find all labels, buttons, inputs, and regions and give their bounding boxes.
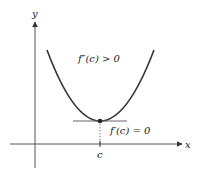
minimum-point — [98, 119, 103, 124]
y-axis-label: y — [31, 8, 38, 19]
x-axis-label: x — [185, 139, 191, 150]
c-label: c — [97, 149, 103, 160]
concavity-diagram: y x c f″(c) > 0 f′(c) = 0 — [0, 0, 198, 176]
second-derivative-annotation: f″(c) > 0 — [77, 53, 121, 64]
first-derivative-annotation: f′(c) = 0 — [109, 125, 151, 136]
